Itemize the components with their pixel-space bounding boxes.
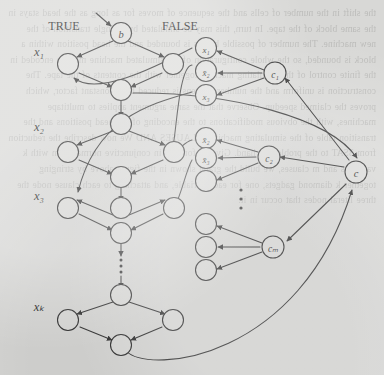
node-clause-cm-label: cₘ [268,244,278,254]
left-vertical-ellipsis [120,259,123,274]
node-x2-join[interactable] [111,167,132,188]
row-label-x2: x₂ [33,120,45,134]
edge-x3-split-false [129,200,165,215]
edge-x3-split-true [77,200,113,215]
edge-c-to-cm [287,184,346,241]
node-xk-false[interactable] [163,310,184,331]
clause-vertical-ellipsis [239,188,242,209]
edge-x2-split-false [129,131,165,145]
node-clause1-literal1-label: x₁ [201,45,209,55]
edge-c-to-c1 [285,78,349,160]
node-x2-true[interactable] [58,142,79,163]
row-label-x3: x₃ [33,189,44,203]
edge-x3-false-to-join [131,214,163,230]
entry-arrow [96,13,111,26]
node-xk-join[interactable] [111,335,132,356]
node-x1-join[interactable] [111,80,132,101]
edge-x2-false-to-join [131,160,163,174]
node-x3-join[interactable] [111,223,132,244]
node-x1-false[interactable] [163,54,184,75]
row-label-xk: xₖ [33,300,46,314]
node-b-label: b [118,29,123,40]
node-x3-split[interactable] [111,198,132,219]
node-clause1-literal2-label: x̄₂ [201,68,209,78]
edge-cm-to-lit1 [217,226,262,243]
edge-xk-false-to-join [131,327,162,340]
edge-xk-split-true [77,302,113,314]
edge-c1-to-lit1 [217,51,264,70]
node-x2-false[interactable] [164,142,185,163]
reduction-diagram: b TRUE FALSE x₁ x₂ x₃ xₖ [0,0,384,375]
false-label: FALSE [162,19,198,33]
edge-cm-to-lit3 [217,252,262,269]
edge-x2-split-true [77,131,113,145]
node-clausem-literal1[interactable] [196,214,217,235]
node-clausem-literal3[interactable] [196,260,217,281]
node-x3-true[interactable] [58,198,79,219]
node-clause1-literal3-label: x₃ [201,92,209,102]
edge-c-to-c2 [280,157,344,167]
curve-lit-x2bar-to-var-x2false [172,65,192,150]
edge-b-to-x1-true [77,41,113,57]
node-xk-true[interactable] [58,310,79,331]
edge-x1-true-to-join [79,73,112,87]
node-clause-c2-label: c₂ [265,154,273,164]
edge-c1-to-lit3 [217,78,264,95]
edge-c2-to-lit2 [218,157,256,158]
true-label: TRUE [48,19,79,33]
node-x1-true[interactable] [58,54,79,75]
edge-b-to-x1-false [128,41,164,57]
node-xk-split[interactable] [111,285,132,306]
edge-c2-to-lit3 [217,163,258,180]
edge-xk-split-false [129,302,165,314]
edge-xk-true-to-join [80,327,112,340]
edge-x1-false-to-join [131,73,162,87]
row-label-x1: x₁ [33,45,44,59]
node-x2-split[interactable] [111,114,132,135]
nodes-layer: b TRUE FALSE x₁ x₂ x₃ xₖ [33,19,367,356]
edge-c2-to-lit1 [217,140,258,152]
node-x3-false[interactable] [164,198,185,219]
node-clause2-literal1-label: x̄₂ [201,135,209,145]
node-clause-c1-label: c₁ [271,70,279,80]
node-clausem-literal2[interactable] [196,237,217,258]
node-clause2-literal2-label: x̄₃ [201,155,209,165]
edge-x3-true-to-join [79,214,112,230]
node-clause2-literal3[interactable] [196,171,217,192]
node-hub-c-label: c [354,168,359,179]
diagram-canvas: b TRUE FALSE x₁ x₂ x₃ xₖ [0,0,384,375]
